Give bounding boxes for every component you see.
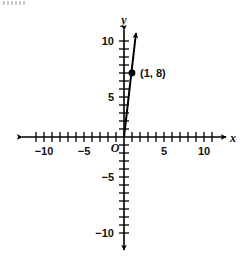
x-tick-label-10: 10 (198, 145, 210, 157)
graph-canvas: −10 −5 5 10 x (0, 0, 248, 262)
scan-artifact (3, 1, 25, 5)
x-tick-label-neg10: −10 (35, 145, 54, 157)
y-tick-label-neg10: −10 (95, 227, 114, 239)
y-tick-label-5: 5 (108, 91, 114, 103)
point-marker (129, 70, 136, 77)
coordinate-plane-figure: −10 −5 5 10 x (0, 0, 248, 262)
data-point-1-8: (1, 8) (129, 67, 166, 79)
x-axis-label: x (229, 131, 236, 145)
y-axis-label: y (119, 13, 127, 27)
origin-label: O (111, 141, 120, 155)
y-tick-label-neg5: −5 (101, 171, 114, 183)
point-label: (1, 8) (140, 67, 166, 79)
x-tick-label-neg5: −5 (78, 145, 91, 157)
y-tick-label-10: 10 (102, 35, 114, 47)
x-tick-label-5: 5 (161, 145, 167, 157)
